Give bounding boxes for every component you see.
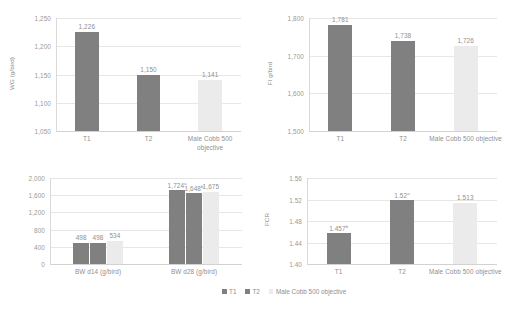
bar[interactable] [198, 80, 221, 131]
bar-value-label: 1,226 [79, 23, 96, 30]
legend-item-t2[interactable]: T2 [245, 288, 259, 295]
plot-area-wg: 1,0501,1001,1501,2001,2501,226T11,150T21… [56, 18, 241, 131]
x-axis-category-label: BW d14 (g/bird) [50, 268, 146, 277]
plot-area-bw: 04008001,2001,6002,000498498534BW d14 (g… [50, 178, 242, 264]
y-axis-tick-label: 1.52 [256, 196, 302, 203]
figure-container: WG (g/bird) 1,0501,1001,1501,2001,2501,2… [0, 0, 511, 315]
y-axis-tick-label: 1,800 [258, 15, 304, 22]
bar-value-label: 498 [76, 234, 87, 241]
y-axis-line [307, 178, 308, 265]
x-axis-line [307, 264, 497, 265]
y-axis-tick-label: 1.48 [256, 218, 302, 225]
y-axis-line [50, 178, 51, 265]
gridline [50, 178, 242, 179]
legend-swatch-icon-t1 [222, 289, 227, 294]
bar[interactable] [328, 25, 352, 131]
y-axis-tick-label: 400 [0, 243, 45, 250]
x-axis-category-label: T1 [302, 268, 375, 277]
legend-item-t1[interactable]: T1 [222, 288, 236, 295]
chart-panel-fcr: FCR 1.401.441.481.521.561.457bT11.52aT21… [255, 158, 511, 288]
plot-area-fcr: 1.401.441.481.521.561.457bT11.52aT21.513… [307, 178, 497, 264]
y-axis-tick-label: 1,700 [258, 52, 304, 59]
y-axis-tick-label: 1.56 [256, 175, 302, 182]
legend-label-t1: T1 [229, 288, 236, 295]
bar[interactable] [137, 75, 160, 132]
bar[interactable] [454, 46, 478, 131]
x-axis-line [309, 131, 497, 132]
bar-value-label: 534 [109, 232, 120, 239]
legend-item-objective[interactable]: Male Cobb 500 objective [269, 288, 346, 295]
bar[interactable] [73, 243, 88, 264]
bar[interactable] [169, 190, 184, 264]
y-axis-line [309, 18, 310, 132]
bar-value-label: 1,738 [395, 32, 412, 39]
plot-area-fi: 1,5001,6001,7001,8001,781T11,738T21,726M… [309, 18, 497, 131]
bar-value-label: 1,648b [184, 184, 203, 192]
y-axis-tick-label: 800 [0, 226, 45, 233]
y-axis-tick-label: 1,600 [258, 90, 304, 97]
x-axis-category-label: T2 [365, 268, 438, 277]
y-axis-tick-label: 2,000 [0, 175, 45, 182]
bar-value-label: 1,150 [140, 66, 157, 73]
chart-panel-wg: WG (g/bird) 1,0501,1001,1501,2001,2501,2… [0, 0, 256, 158]
bar-value-label: 1.513 [457, 194, 474, 201]
y-axis-tick-label: 1,200 [5, 43, 51, 50]
legend-label-objective: Male Cobb 500 objective [276, 288, 346, 295]
bar[interactable] [453, 203, 477, 264]
legend-swatch-icon-objective [269, 289, 274, 294]
y-axis-tick-label: 1,050 [5, 128, 51, 135]
bar[interactable] [203, 192, 218, 264]
x-axis-category-label: Male Cobb 500 objective [429, 268, 502, 277]
bar[interactable] [90, 243, 105, 264]
chart-panel-bw: 04008001,2001,6002,000498498534BW d14 (g… [0, 158, 256, 288]
legend-swatch-icon-t2 [245, 289, 250, 294]
y-axis-tick-label: 1.40 [256, 261, 302, 268]
bar-value-label: 1,141 [202, 71, 219, 78]
x-axis-line [56, 131, 241, 132]
bar[interactable] [390, 200, 414, 265]
x-axis-category-label: BW d28 (g/bird) [146, 268, 242, 277]
y-axis-tick-label: 1.44 [256, 239, 302, 246]
y-axis-tick-label: 1,250 [5, 15, 51, 22]
chart-legend: T1 T2 Male Cobb 500 objective [222, 288, 346, 295]
gridline [307, 178, 497, 179]
chart-panel-fi: FI g/bird 1,5001,6001,7001,8001,781T11,7… [255, 0, 511, 158]
bar-value-label: 1,726 [457, 37, 474, 44]
x-axis-line [50, 264, 242, 265]
y-axis-tick-label: 0 [0, 261, 45, 268]
x-axis-category-label: Male Cobb 500 objective [174, 135, 246, 152]
gridline [56, 18, 241, 19]
bar-value-label: 1.52a [394, 191, 409, 199]
y-axis-tick-label: 1,500 [258, 128, 304, 135]
bar-value-label: 498 [93, 234, 104, 241]
x-axis-category-label: Male Cobb 500 objective [429, 135, 502, 144]
y-axis-tick-label: 1,200 [0, 209, 45, 216]
bar[interactable] [186, 193, 201, 264]
y-axis-tick-label: 1,100 [5, 99, 51, 106]
y-axis-tick-label: 1,600 [0, 192, 45, 199]
bar-value-label: 1.457b [329, 224, 348, 232]
y-axis-line [56, 18, 57, 132]
bar-value-label: 1,781 [332, 16, 349, 23]
bar[interactable] [391, 41, 415, 131]
bar-value-label: 1,675 [203, 183, 220, 190]
bar[interactable] [327, 233, 351, 264]
bar[interactable] [75, 32, 98, 131]
y-axis-tick-label: 1,150 [5, 71, 51, 78]
bar[interactable] [107, 241, 122, 264]
legend-label-t2: T2 [252, 288, 259, 295]
